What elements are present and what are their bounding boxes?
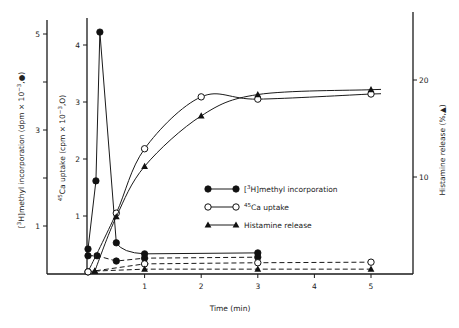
filled-circle-marker	[113, 258, 119, 264]
series-4	[91, 86, 381, 274]
left-outer-tick-label: 1	[35, 222, 40, 231]
right-axis-title: Histamine release (%,▲)	[438, 104, 447, 195]
series-line	[88, 94, 381, 272]
chart: 1234513512341020[3H]methyl incorporation…	[0, 0, 459, 328]
x-axis-title: Time (min)	[209, 304, 251, 313]
legend-label: Histamine release	[244, 221, 312, 230]
right-tick-label: 20	[419, 76, 429, 85]
left-outer-tick-label: 5	[35, 30, 40, 39]
series-3	[85, 259, 374, 275]
filled-circle-marker	[205, 186, 211, 192]
legend-label: [3H]methyl incorporation	[244, 184, 338, 194]
filled-circle-marker	[85, 246, 91, 252]
series-line	[88, 262, 371, 272]
open-circle-marker	[233, 204, 239, 210]
x-tick-label: 2	[199, 282, 204, 291]
series-5	[91, 266, 374, 274]
legend: [3H]methyl incorporation45Ca uptakeHista…	[205, 184, 338, 230]
filled-circle-marker	[113, 240, 119, 246]
filled-circle-marker	[93, 178, 99, 184]
open-circle-marker	[205, 204, 211, 210]
legend-entry-2: Histamine release	[205, 221, 312, 230]
open-circle-marker	[141, 146, 147, 152]
series-line	[95, 89, 381, 271]
left-inner-tick-label: 3	[75, 98, 80, 107]
x-tick-label: 4	[312, 282, 317, 291]
left-inner-tick-label: 2	[75, 155, 80, 164]
x-tick-label: 5	[369, 282, 374, 291]
right-tick-label: 10	[419, 173, 429, 182]
open-circle-marker	[198, 94, 204, 100]
left-inner-tick-label: 1	[75, 212, 80, 221]
legend-entry-0: [3H]methyl incorporation	[205, 184, 338, 194]
left-outer-axis-title: [3H]methyl incorporation (dpm × 10−3,●)	[16, 72, 26, 228]
x-tick-label: 1	[142, 282, 147, 291]
legend-entry-1: 45Ca uptake	[205, 202, 290, 212]
legend-label: 45Ca uptake	[244, 202, 289, 212]
filled-circle-marker	[85, 253, 91, 259]
open-circle-marker	[255, 260, 261, 266]
series-line	[95, 269, 371, 271]
axes: 1234513512341020[3H]methyl incorporation…	[16, 12, 447, 291]
series-line	[88, 32, 258, 254]
open-circle-marker	[85, 269, 91, 275]
filled-circle-marker	[233, 186, 239, 192]
left-outer-tick-label: 3	[35, 126, 40, 135]
left-inner-axis-title: 45Ca uptake (cpm × 10−3,O)	[57, 95, 67, 201]
open-circle-marker	[368, 259, 374, 265]
left-inner-tick-label: 4	[75, 41, 80, 50]
x-tick-label: 3	[255, 282, 260, 291]
filled-circle-marker	[97, 29, 103, 35]
filled-triangle-marker	[198, 112, 205, 118]
series-2	[85, 91, 381, 275]
plot-area	[85, 29, 381, 275]
